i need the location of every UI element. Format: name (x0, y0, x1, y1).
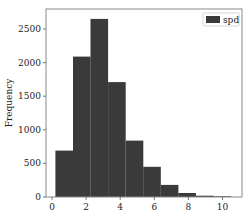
histogram-bar (126, 141, 144, 197)
histogram-bar (55, 151, 73, 197)
histogram-bar (108, 82, 126, 197)
x-tick-label: 8 (186, 202, 192, 212)
legend-label: spd (223, 15, 239, 25)
y-tick-label: 0 (35, 192, 41, 202)
histogram-bar (178, 193, 196, 197)
legend: spd (203, 13, 239, 26)
x-tick-label: 0 (49, 202, 55, 212)
y-tick-label: 2000 (18, 58, 41, 68)
y-tick-label: 2500 (18, 24, 41, 34)
x-tick-label: 6 (151, 202, 157, 212)
x-tick-label: 4 (117, 202, 123, 212)
y-axis-label: Frequency (4, 78, 14, 128)
histogram-bars (55, 19, 231, 197)
histogram-bar (91, 19, 109, 197)
y-tick-label: 1500 (18, 91, 41, 101)
histogram-chart: 05001000150020002500 0246810 Frequency s… (0, 0, 247, 224)
histogram-bar (161, 185, 179, 197)
x-axis: 0246810 (49, 197, 228, 212)
histogram-bar (73, 57, 91, 197)
histogram-bar (143, 167, 161, 197)
x-tick-label: 10 (217, 202, 229, 212)
y-tick-label: 500 (24, 158, 41, 168)
x-tick-label: 2 (83, 202, 89, 212)
y-axis: 05001000150020002500 (18, 24, 46, 202)
legend-swatch (206, 16, 220, 23)
y-tick-label: 1000 (18, 125, 41, 135)
